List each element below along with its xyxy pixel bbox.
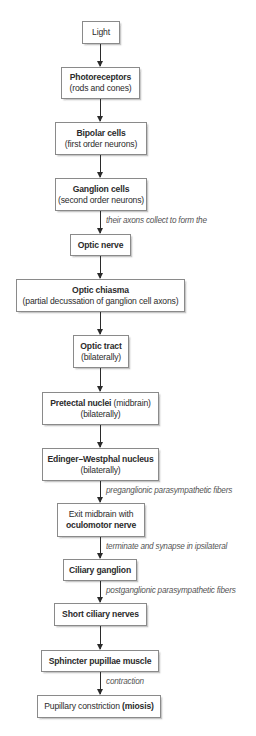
node-optic-nerve: Optic nerve: [70, 234, 131, 256]
node-subtitle: (partial decussation of ganglion cell ax…: [23, 296, 179, 307]
node-sphincter-pupillae-muscle: Sphincter pupillae muscle: [41, 650, 159, 672]
node-title-line: Pretectal nuclei (midbrain): [50, 398, 151, 409]
edge-label: terminate and synapse in ipsilateral: [106, 542, 227, 551]
node-title-suffix: (midbrain): [111, 398, 150, 408]
arrow-optic-tract-to-pretectal: [100, 368, 101, 391]
node-title: Bipolar cells: [76, 128, 125, 139]
node-subtitle: (second order neurons): [58, 195, 144, 206]
node-pupillary-constriction: Pupillary constriction (miosis): [37, 695, 161, 718]
node-title: Optic chiasma: [72, 285, 129, 296]
node-title: Short ciliary nerves: [62, 609, 139, 620]
node-title: Photoreceptors: [70, 72, 131, 83]
node-subtitle: (rods and cones): [69, 83, 131, 94]
node-short-ciliary-nerves: Short ciliary nerves: [54, 603, 147, 626]
arrow-sphincter-to-constriction: [100, 672, 101, 694]
arrow-ciliary-ganglion-to-short-ciliary: [100, 581, 101, 602]
node-light: Light: [82, 21, 120, 44]
node-optic-tract: Optic tract (bilaterally): [73, 335, 129, 368]
node-subtitle: (bilaterally): [81, 352, 121, 363]
edge-label: postganglionic parasympathetic fibers: [106, 586, 236, 595]
node-title: Light: [92, 27, 110, 38]
node-title: (miosis): [122, 701, 154, 711]
arrow-short-ciliary-to-sphincter: [100, 626, 101, 649]
node-title: oculomotor nerve: [66, 520, 136, 531]
edge-label: contraction: [106, 677, 144, 686]
node-photoreceptors: Photoreceptors (rods and cones): [61, 67, 140, 99]
node-title: Pretectal nuclei: [50, 398, 111, 408]
edge-label: their axons collect to form the: [106, 216, 207, 225]
node-ciliary-ganglion: Ciliary ganglion: [63, 559, 137, 581]
node-title: Ganglion cells: [73, 184, 130, 195]
arrow-ganglion-to-optic-nerve: [100, 211, 101, 233]
node-prefix: Exit midbrain with: [69, 509, 134, 520]
node-title-line: Pupillary constriction (miosis): [44, 701, 154, 712]
node-ganglion-cells: Ganglion cells (second order neurons): [55, 178, 147, 211]
arrow-bipolar-to-ganglion: [100, 155, 101, 177]
node-edinger-westphal-nucleus: Edinger–Westphal nucleus (bilaterally): [42, 448, 159, 481]
node-pretectal-nuclei: Pretectal nuclei (midbrain) (bilaterally…: [42, 392, 159, 425]
arrow-chiasma-to-optic-tract: [100, 312, 101, 334]
node-subtitle: (bilaterally): [80, 409, 120, 420]
arrow-exit-midbrain-to-ciliary-ganglion: [100, 537, 101, 558]
node-title: Edinger–Westphal nucleus: [47, 454, 153, 465]
arrow-light-to-photoreceptors: [100, 44, 101, 66]
node-title: Ciliary ganglion: [69, 565, 131, 576]
node-optic-chiasma: Optic chiasma (partial decussation of ga…: [16, 279, 185, 312]
node-prefix: Pupillary constriction: [44, 701, 122, 711]
node-title: Optic tract: [80, 341, 121, 352]
arrow-pretectal-to-edinger: [100, 425, 101, 447]
node-title: Optic nerve: [78, 240, 124, 251]
arrow-edinger-to-exit-midbrain: [100, 481, 101, 502]
node-exit-midbrain: Exit midbrain with oculomotor nerve: [57, 503, 145, 537]
node-bipolar-cells: Bipolar cells (first order neurons): [55, 122, 147, 155]
edge-label: preganglionic parasympathetic fibers: [106, 486, 232, 495]
node-subtitle: (bilaterally): [80, 465, 120, 476]
arrow-photoreceptors-to-bipolar: [100, 99, 101, 121]
node-title: Sphincter pupillae muscle: [49, 656, 152, 667]
node-subtitle: (first order neurons): [65, 139, 137, 150]
arrow-optic-nerve-to-chiasma: [100, 256, 101, 278]
